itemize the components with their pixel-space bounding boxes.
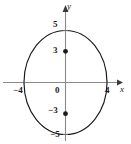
x-tick-label-neg4: −4 xyxy=(13,86,23,95)
point-0-3 xyxy=(63,49,68,54)
y-tick-label-5: 5 xyxy=(53,20,58,29)
origin-label: 0 xyxy=(55,86,60,95)
coordinate-plane-graphic xyxy=(0,0,131,144)
ellipse-figure: y x 5 3 0 −3 −5 −4 4 xyxy=(0,0,131,144)
y-point-label-neg3: −3 xyxy=(48,106,58,115)
y-axis-label: y xyxy=(67,2,71,11)
y-point-label-3: 3 xyxy=(53,46,58,55)
x-tick-label-4: 4 xyxy=(105,86,110,95)
y-tick-label-neg5: −5 xyxy=(50,130,60,139)
point-0-neg3 xyxy=(63,111,68,116)
x-axis-label: x xyxy=(120,85,124,94)
